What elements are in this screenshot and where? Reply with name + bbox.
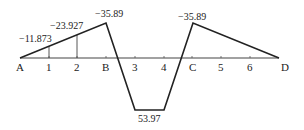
value-label-bottom: 53.97 <box>138 113 161 124</box>
point-label-C: C <box>189 61 196 73</box>
point-label-6: 6 <box>247 61 253 73</box>
point-label-D: D <box>281 61 289 73</box>
point-label-1: 1 <box>46 61 52 73</box>
moment-diagram: −11.873 −23.927 −35.89 −35.89 53.97 A 1 … <box>0 0 304 130</box>
point-label-4: 4 <box>161 61 167 73</box>
point-label-5: 5 <box>218 61 224 73</box>
point-label-A: A <box>16 61 24 73</box>
moment-curve <box>20 23 279 110</box>
value-label-B: −35.89 <box>95 8 123 19</box>
point-label-3: 3 <box>132 61 138 73</box>
value-label-2: −23.927 <box>50 20 83 31</box>
value-label-1: −11.873 <box>19 33 52 44</box>
point-label-B: B <box>102 61 109 73</box>
point-label-2: 2 <box>74 61 80 73</box>
value-label-C: −35.89 <box>178 11 206 22</box>
